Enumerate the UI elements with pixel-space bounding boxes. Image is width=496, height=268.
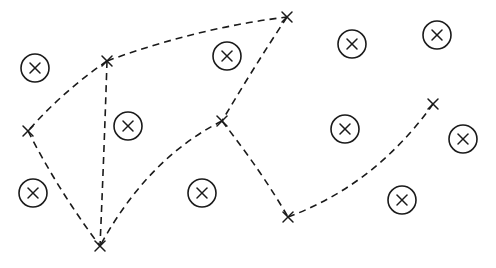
cross-node-D: [217, 116, 227, 126]
circled-x-icon: [423, 21, 451, 49]
cross-node-G: [428, 99, 438, 109]
network-diagram: [0, 0, 496, 268]
circled-x-icon: [331, 115, 359, 143]
edge-A-E: [100, 61, 107, 246]
edge-A-B: [107, 17, 287, 61]
edge-D-F: [222, 121, 288, 217]
circled-x-icon: [449, 125, 477, 153]
circled-x-markers: [19, 21, 477, 214]
circled-x-icon: [213, 42, 241, 70]
cross-node-C: [23, 126, 33, 136]
circled-x-icon: [114, 112, 142, 140]
circled-x-icon: [21, 54, 49, 82]
cross-node-F: [283, 212, 293, 222]
circled-x-icon: [19, 179, 47, 207]
circled-x-icon: [188, 179, 216, 207]
circled-x-icon: [338, 30, 366, 58]
circled-x-icon: [388, 186, 416, 214]
